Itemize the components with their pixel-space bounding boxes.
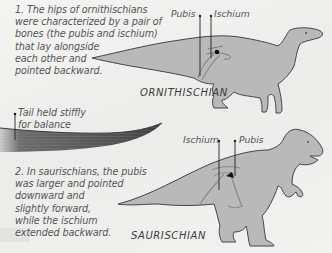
saurischian-ischium-label: Ischium <box>183 134 219 145</box>
tail-description: Tail held stiffly for balance <box>18 107 86 131</box>
ornithischian-hip-joint <box>215 50 220 55</box>
ornithischian-pubis-label: Pubis <box>171 8 196 19</box>
dinosaur-hip-diagram: 1. The hips of ornithischians were chara… <box>0 0 332 253</box>
ornithischian-description: 1. The hips of ornithischians were chara… <box>15 4 162 77</box>
saurischian-caption: SAURISCHIAN <box>131 230 206 241</box>
ornithischian-caption: ORNITHISCHIAN <box>140 87 228 98</box>
ornithischian-ischium-label: Ischium <box>214 8 250 19</box>
saurischian-description: 2. In saurischians, the pubis was larger… <box>15 166 147 239</box>
saurischian-dinosaur <box>118 129 323 246</box>
saurischian-pubis-label: Pubis <box>239 134 264 145</box>
